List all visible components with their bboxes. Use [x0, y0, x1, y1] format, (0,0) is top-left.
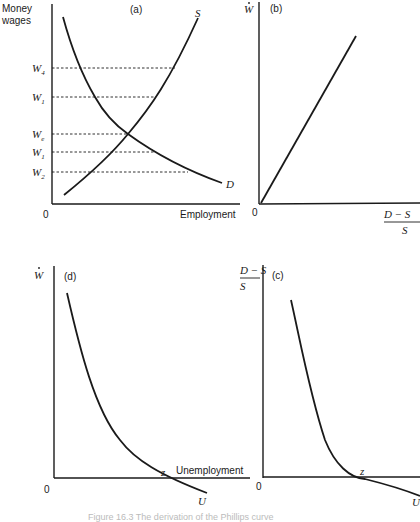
panel-c: D − S S (c) z 0 U	[239, 264, 420, 508]
panel-b-title: (b)	[270, 3, 282, 14]
wage-label-w1-lower: W1	[32, 146, 45, 161]
panel-c-y-den: S	[240, 280, 246, 292]
panel-c-origin: 0	[256, 481, 262, 492]
panel-d-origin: 0	[44, 484, 50, 495]
phillips-curve	[67, 293, 207, 493]
panel-a: Money wages (a) S D 0 Employment W4 W1 W…	[1, 3, 240, 220]
wage-guides	[52, 68, 188, 172]
demand-label: D	[225, 178, 234, 190]
panel-c-y-num: D − S	[239, 264, 267, 276]
panel-b-x-axis	[259, 203, 420, 204]
supply-label: S	[195, 7, 201, 19]
panel-b: W (b) 0 D − S S	[244, 2, 420, 236]
point-z-d: z	[160, 466, 166, 478]
panel-a-origin: 0	[43, 209, 49, 220]
panel-b-y-label: W	[244, 3, 254, 15]
panel-b-origin: 0	[252, 207, 258, 218]
dot-accent	[248, 2, 250, 4]
wage-inflation-line	[261, 36, 356, 203]
x-axis-label-employment: Employment	[180, 209, 236, 220]
excess-demand-curve	[291, 300, 420, 496]
panel-d: W (d) z Unemployment 0 U	[34, 266, 250, 507]
panel-b-x-num: D − S	[383, 208, 411, 220]
y-axis-label-line1: Money	[2, 3, 32, 14]
curve-label-u-c: U	[412, 496, 420, 508]
x-axis-label-unemployment: Unemployment	[176, 465, 243, 476]
point-z-c: z	[359, 465, 365, 477]
y-axis-label-line2: wages	[1, 15, 31, 26]
dot-accent	[38, 267, 40, 269]
wage-label-we: We	[32, 128, 44, 143]
panel-c-title: (c)	[272, 270, 284, 281]
wage-label-w1-upper: W1	[32, 91, 45, 106]
curve-label-u-d: U	[198, 495, 207, 507]
panel-d-title: (d)	[64, 271, 76, 282]
supply-curve	[64, 18, 198, 195]
wage-label-w2: W2	[32, 166, 45, 181]
demand-curve	[63, 17, 222, 183]
wage-label-w4: W4	[32, 62, 45, 77]
panel-a-title: (a)	[130, 4, 142, 15]
figure-caption: Figure 16.3 The derivation of the Philli…	[88, 512, 273, 522]
panel-d-y-label: W	[34, 269, 44, 281]
panel-b-x-den: S	[402, 224, 408, 236]
